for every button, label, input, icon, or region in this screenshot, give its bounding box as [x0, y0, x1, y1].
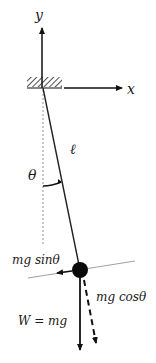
radial-force-arrow — [84, 280, 96, 343]
tangential-force-arrow — [57, 271, 72, 273]
string-length-label: ℓ — [70, 141, 76, 157]
pendulum-string — [43, 88, 80, 270]
x-axis-label: x — [127, 81, 135, 97]
angle-label: θ — [28, 167, 37, 183]
weight-force-label: W = mg — [18, 314, 67, 328]
tangential-force-label: mg sinθ — [12, 253, 61, 267]
pendulum-diagram: y x ℓ θ mg sinθ W = mg mg cosθ — [0, 0, 156, 363]
y-axis-label: y — [34, 7, 44, 23]
radial-force-label: mg cosθ — [96, 290, 147, 304]
support-ceiling — [27, 77, 62, 87]
pendulum-bob — [72, 262, 88, 278]
